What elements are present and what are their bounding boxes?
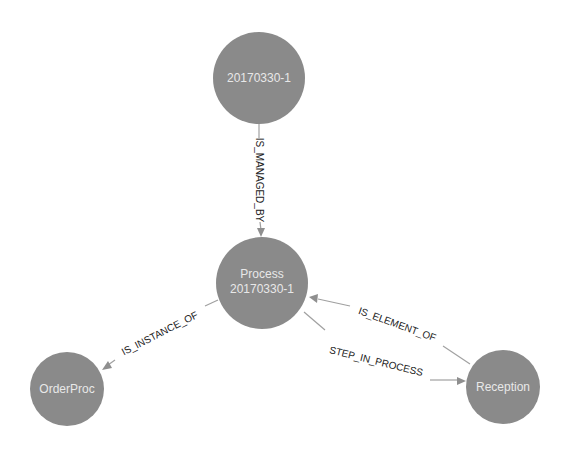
- node-process-20170330-1[interactable]: Process 20170330-1: [216, 237, 308, 329]
- arrow-icon: [257, 228, 265, 237]
- edge-label: STEP_IN_PROCESS: [328, 344, 424, 378]
- edge-label: IS_ELEMENT_OF: [357, 305, 438, 343]
- edge-line: [318, 299, 350, 306]
- node-20170330-1[interactable]: 20170330-1: [213, 32, 305, 124]
- edge-is-instance-of[interactable]: IS_INSTANCE_OF: [102, 300, 218, 370]
- arrow-icon: [309, 294, 318, 303]
- node-label: 20170330-1: [227, 71, 291, 85]
- node-label-line1: Process: [240, 267, 283, 281]
- edge-label: IS_MANAGED_BY: [254, 138, 265, 223]
- edge-line: [304, 312, 325, 330]
- arrow-icon: [102, 361, 112, 370]
- edge-line: [205, 300, 218, 306]
- edge-is-managed-by[interactable]: IS_MANAGED_BY: [254, 124, 265, 237]
- node-label-line2: 20170330-1: [230, 282, 294, 296]
- graph-canvas[interactable]: IS_MANAGED_BY IS_INSTANCE_OF IS_ELEMENT_…: [0, 0, 572, 455]
- edge-line: [443, 346, 470, 364]
- node-orderproc[interactable]: OrderProc: [30, 352, 104, 426]
- node-label: Reception: [476, 380, 530, 394]
- arrow-icon: [457, 377, 466, 385]
- node-label: OrderProc: [39, 382, 94, 396]
- node-reception[interactable]: Reception: [466, 350, 540, 424]
- edge-label: IS_INSTANCE_OF: [120, 309, 200, 357]
